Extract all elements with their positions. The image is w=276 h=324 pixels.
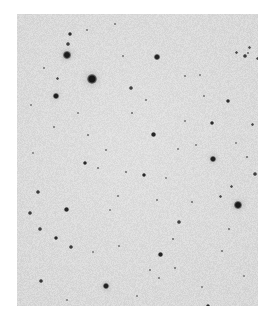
star-point xyxy=(39,279,43,283)
star-point xyxy=(154,54,160,60)
sky-plate-image xyxy=(17,14,258,306)
star-point xyxy=(77,112,79,114)
star-point xyxy=(66,299,68,301)
star-point xyxy=(151,132,156,137)
star-point xyxy=(226,99,230,103)
star-point xyxy=(248,46,251,49)
star-point xyxy=(156,199,158,201)
star-point xyxy=(118,245,120,247)
star-point xyxy=(105,149,107,151)
star-point xyxy=(247,52,250,55)
star-point xyxy=(246,156,249,159)
star-point xyxy=(36,190,39,193)
star-point xyxy=(56,77,59,80)
star-point xyxy=(203,95,205,97)
star-point xyxy=(117,195,119,197)
star-point xyxy=(243,54,246,57)
star-point xyxy=(97,167,100,170)
star-point xyxy=(219,195,222,198)
star-point xyxy=(235,51,238,54)
star-point xyxy=(230,185,233,188)
star-field-layer xyxy=(17,14,258,306)
star-point xyxy=(38,227,41,230)
star-point xyxy=(234,201,242,209)
star-point xyxy=(172,238,175,241)
star-point xyxy=(109,209,111,211)
screenshot-canvas xyxy=(0,0,276,324)
star-point xyxy=(28,211,31,214)
star-point xyxy=(256,57,259,60)
star-point xyxy=(158,252,163,257)
star-point xyxy=(221,250,223,252)
star-point xyxy=(122,55,124,57)
star-point xyxy=(86,29,88,31)
star-point xyxy=(66,42,69,45)
star-point xyxy=(184,75,186,77)
star-point xyxy=(136,295,138,297)
star-point xyxy=(32,152,34,154)
star-point xyxy=(174,267,177,270)
star-point xyxy=(129,86,132,89)
star-point xyxy=(87,134,90,137)
star-point xyxy=(195,144,197,146)
star-point xyxy=(235,142,237,144)
star-point xyxy=(63,51,70,58)
star-point xyxy=(206,304,211,306)
star-point xyxy=(125,171,128,174)
star-point xyxy=(145,99,147,101)
star-point xyxy=(243,275,245,277)
star-point xyxy=(54,236,59,241)
star-point xyxy=(92,251,94,253)
star-point xyxy=(165,177,167,179)
star-point xyxy=(43,67,45,69)
star-point xyxy=(83,161,88,166)
star-point xyxy=(158,277,160,279)
star-point xyxy=(184,120,186,122)
star-point xyxy=(87,74,97,84)
star-point xyxy=(251,123,254,126)
star-point xyxy=(253,172,256,175)
star-point xyxy=(30,104,32,106)
star-point xyxy=(103,283,109,289)
star-point xyxy=(131,112,134,115)
star-point xyxy=(64,207,69,212)
star-point xyxy=(210,156,216,162)
star-point xyxy=(53,93,60,100)
star-point xyxy=(114,23,116,25)
star-point xyxy=(149,269,152,272)
star-point xyxy=(228,228,231,231)
star-point xyxy=(68,32,72,36)
star-point xyxy=(210,121,215,126)
star-point xyxy=(53,126,55,128)
star-point xyxy=(177,220,180,223)
star-point xyxy=(69,245,72,248)
star-point xyxy=(191,201,194,204)
star-point xyxy=(142,173,147,178)
star-point xyxy=(201,286,203,288)
star-point xyxy=(199,74,201,76)
star-point xyxy=(177,148,179,150)
